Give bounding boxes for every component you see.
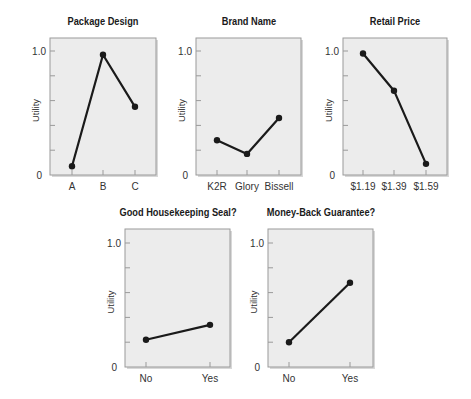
y-axis-label: Utility [30, 99, 41, 122]
data-point [276, 115, 282, 121]
y-axis-label: Utility [176, 99, 187, 122]
chart-money-back-guarantee: 01.0UtilityNoYes [248, 229, 375, 384]
x-tick-label: Bissell [265, 181, 294, 192]
y-tick-label: 0 [182, 170, 188, 181]
y-tick-label: 1.0 [107, 238, 121, 249]
data-point [347, 279, 353, 285]
data-point [69, 163, 75, 169]
data-point [360, 50, 366, 56]
y-tick-label: 0 [254, 362, 260, 373]
plot-area [125, 229, 230, 367]
data-point [207, 322, 213, 328]
data-point [100, 52, 106, 58]
chart-brand-name: 01.0UtilityK2RGloryBissell [176, 38, 303, 192]
conjoint-utility-charts: 01.0UtilityABC01.0UtilityK2RGloryBissell… [0, 0, 471, 399]
data-point [391, 87, 397, 93]
x-tick-label: Glory [235, 181, 259, 192]
data-point [143, 337, 149, 343]
data-point [244, 151, 250, 157]
y-axis-label: Utility [248, 290, 259, 313]
y-tick-label: 1.0 [325, 46, 339, 57]
x-tick-label: Yes [202, 373, 218, 384]
y-tick-label: 1.0 [178, 46, 192, 57]
y-tick-label: 1.0 [250, 238, 264, 249]
plot-area [343, 38, 447, 175]
data-point [286, 339, 292, 345]
x-tick-label: $1.19 [350, 181, 375, 192]
x-tick-label: No [283, 373, 296, 384]
data-point [132, 104, 138, 110]
chart-retail-price: 01.0Utility$1.19$1.39$1.59 [323, 38, 449, 192]
y-tick-label: 1.0 [32, 46, 46, 57]
y-tick-label: 0 [36, 170, 42, 181]
data-point [423, 161, 429, 167]
x-tick-label: $1.39 [381, 181, 406, 192]
chart-package-design: 01.0UtilityABC [30, 38, 158, 192]
data-point [214, 137, 220, 143]
x-tick-label: B [100, 181, 107, 192]
y-axis-label: Utility [105, 290, 116, 313]
plot-area [268, 229, 373, 367]
y-axis-label: Utility [323, 99, 334, 122]
x-tick-label: No [140, 373, 153, 384]
y-tick-label: 0 [329, 170, 335, 181]
x-tick-label: Yes [342, 373, 358, 384]
x-tick-label: A [69, 181, 76, 192]
y-tick-label: 0 [111, 362, 117, 373]
x-tick-label: C [131, 181, 138, 192]
x-tick-label: K2R [207, 181, 226, 192]
x-tick-label: $1.59 [413, 181, 438, 192]
chart-good-housekeeping-seal: 01.0UtilityNoYes [105, 229, 232, 384]
